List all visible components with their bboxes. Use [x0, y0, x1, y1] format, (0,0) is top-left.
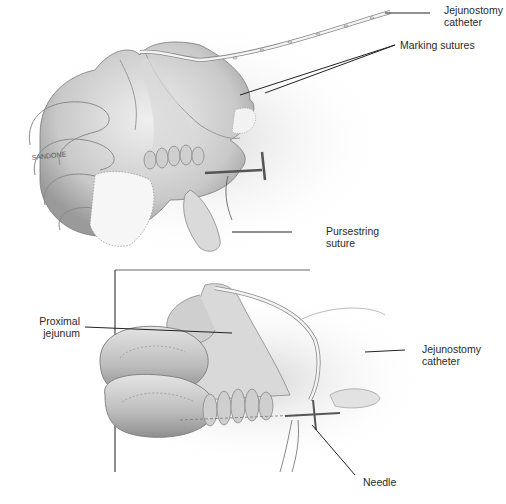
label-marking-sutures: Marking sutures	[400, 39, 475, 51]
label-line: suture	[326, 237, 379, 249]
label-line: jejunum	[36, 327, 80, 339]
label-line: Marking sutures	[400, 39, 475, 51]
label-line: Proximal	[36, 315, 80, 327]
label-line: Needle	[363, 476, 396, 488]
label-line: Jejunostomy	[444, 4, 503, 16]
label-proximal-jejunum: Proximal jejunum	[36, 315, 80, 339]
label-line: Pursestring	[326, 225, 379, 237]
illustration-svg: SANDONE	[0, 0, 506, 504]
top-panel: SANDONE	[10, 12, 430, 260]
label-jejunostomy-catheter-bottom: Jejunostomy catheter	[422, 343, 481, 367]
label-line: catheter	[444, 16, 503, 28]
label-jejunostomy-catheter-top: Jejunostomy catheter	[444, 4, 503, 28]
bottom-panel	[85, 270, 430, 475]
label-line: Jejunostomy	[422, 343, 481, 355]
jejunostomy-illustration: SANDONE	[0, 0, 506, 504]
label-line: catheter	[422, 355, 481, 367]
label-needle: Needle	[363, 476, 396, 488]
label-pursestring-suture: Pursestring suture	[326, 225, 379, 249]
